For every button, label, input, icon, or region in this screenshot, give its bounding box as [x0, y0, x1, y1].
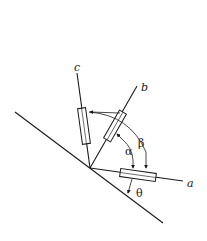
gauge-c: [78, 108, 91, 145]
inclined-surface-line: [15, 112, 163, 223]
label-alpha: α: [125, 145, 133, 158]
gauge-b: [104, 110, 127, 142]
label-theta: θ: [136, 187, 143, 200]
label-c: c: [74, 61, 80, 74]
angle-theta-arrow: [128, 179, 132, 193]
label-b: b: [141, 81, 148, 94]
angle-alpha-arc-start: [117, 134, 124, 141]
strain-rosette-diagram: c b a α β θ: [0, 0, 207, 241]
gauge-a: [120, 169, 157, 182]
label-beta: β: [138, 137, 144, 150]
label-a: a: [187, 177, 194, 190]
